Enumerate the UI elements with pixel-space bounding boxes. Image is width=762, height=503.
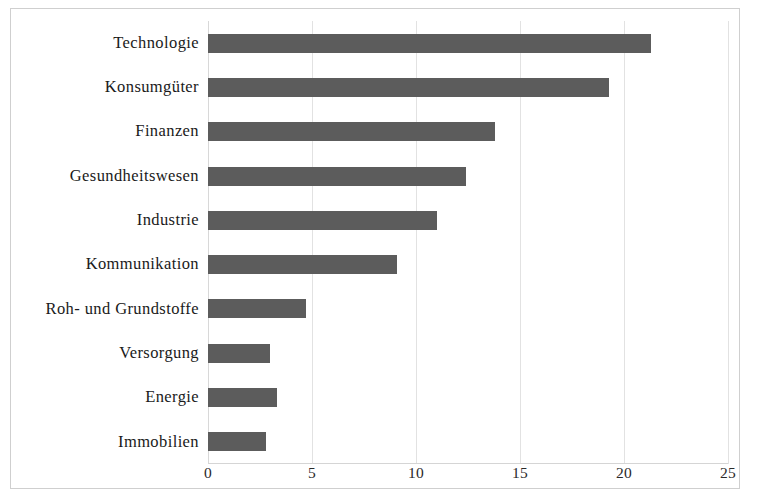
bar-row: Energie bbox=[208, 375, 728, 419]
bar-row: Finanzen bbox=[208, 110, 728, 154]
category-label: Roh- und Grundstoffe bbox=[46, 301, 199, 318]
x-tick-label: 10 bbox=[408, 464, 424, 482]
category-label: Kommunikation bbox=[86, 256, 199, 273]
x-tick-label: 5 bbox=[308, 464, 316, 482]
category-label: Finanzen bbox=[135, 123, 199, 140]
bar[interactable] bbox=[208, 167, 466, 186]
x-tick-label: 15 bbox=[512, 464, 528, 482]
bar[interactable] bbox=[208, 78, 609, 97]
category-label: Immobilien bbox=[118, 434, 199, 451]
bar[interactable] bbox=[208, 255, 397, 274]
bar-row: Gesundheitswesen bbox=[208, 154, 728, 198]
bar-row: Roh- und Grundstoffe bbox=[208, 287, 728, 331]
bar-row: Technologie bbox=[208, 21, 728, 65]
x-tick-label: 0 bbox=[204, 464, 212, 482]
bar[interactable] bbox=[208, 432, 266, 451]
bar-row: Kommunikation bbox=[208, 243, 728, 287]
bar[interactable] bbox=[208, 34, 651, 53]
gridline-25 bbox=[728, 21, 729, 464]
x-tick-label: 20 bbox=[616, 464, 632, 482]
category-label: Konsumgüter bbox=[105, 79, 199, 96]
bar-rows: TechnologieKonsumgüterFinanzenGesundheit… bbox=[208, 21, 728, 464]
bar[interactable] bbox=[208, 299, 306, 318]
bar[interactable] bbox=[208, 122, 495, 141]
plot-area: TechnologieKonsumgüterFinanzenGesundheit… bbox=[208, 21, 728, 464]
bar[interactable] bbox=[208, 388, 277, 407]
category-label: Gesundheitswesen bbox=[70, 168, 199, 185]
bar-row: Konsumgüter bbox=[208, 65, 728, 109]
bar[interactable] bbox=[208, 344, 270, 363]
bar-row: Versorgung bbox=[208, 331, 728, 375]
chart-page: TechnologieKonsumgüterFinanzenGesundheit… bbox=[0, 0, 762, 503]
x-tick-label: 25 bbox=[720, 464, 736, 482]
category-label: Industrie bbox=[137, 212, 199, 229]
category-label: Energie bbox=[145, 389, 199, 406]
bar[interactable] bbox=[208, 211, 437, 230]
x-axis-tick-labels: 0510152025 bbox=[208, 464, 728, 488]
bar-row: Immobilien bbox=[208, 420, 728, 464]
category-label: Versorgung bbox=[119, 345, 199, 362]
chart-frame: TechnologieKonsumgüterFinanzenGesundheit… bbox=[10, 8, 740, 489]
category-label: Technologie bbox=[113, 35, 199, 52]
bar-row: Industrie bbox=[208, 198, 728, 242]
